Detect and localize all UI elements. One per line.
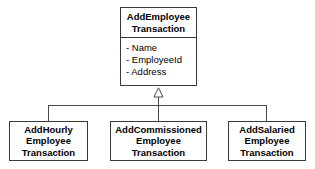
class-box-add-salaried-employee-transaction[interactable]: AddSalaried Employee Transaction [228, 121, 306, 161]
class-title-line-3: Transaction [239, 147, 294, 159]
uml-class-diagram-canvas: AddEmployee Transaction - Name - Employe… [0, 0, 315, 169]
class-title-add-employee-transaction: AddEmployee Transaction [121, 8, 196, 37]
class-box-add-hourly-employee-transaction[interactable]: AddHourly Employee Transaction [9, 121, 88, 161]
class-attribute-address: - Address [126, 66, 196, 78]
class-title-line-1: AddHourly [22, 124, 75, 136]
class-title-line-2: Employee [239, 135, 294, 147]
class-box-add-employee-transaction[interactable]: AddEmployee Transaction - Name - Employe… [120, 7, 197, 86]
class-attribute-employeeid: - EmployeeId [126, 54, 196, 66]
class-title-line-2: Employee [22, 135, 75, 147]
class-title-line-3: Transaction [22, 147, 75, 159]
class-title-add-hourly-employee-transaction: AddHourly Employee Transaction [22, 124, 75, 159]
class-title-add-commissioned-employee-transaction: AddCommissioned Employee Transaction [115, 124, 202, 159]
class-title-line-3: Transaction [115, 147, 202, 159]
class-attributes-list: - Name - EmployeeId - Address [121, 38, 196, 81]
class-title-line-2: Transaction [123, 23, 194, 35]
class-title-line-1: AddEmployee [123, 11, 194, 23]
class-box-add-commissioned-employee-transaction[interactable]: AddCommissioned Employee Transaction [110, 121, 207, 161]
class-title-line-2: Employee [115, 135, 202, 147]
class-title-add-salaried-employee-transaction: AddSalaried Employee Transaction [239, 124, 294, 159]
class-attribute-name: - Name [126, 42, 196, 54]
generalization-branch-salaried [266, 105, 267, 122]
generalization-branch-hourly [48, 105, 49, 122]
class-title-line-1: AddCommissioned [115, 124, 202, 136]
class-title-line-1: AddSalaried [239, 124, 294, 136]
generalization-branch-commissioned [158, 105, 159, 122]
